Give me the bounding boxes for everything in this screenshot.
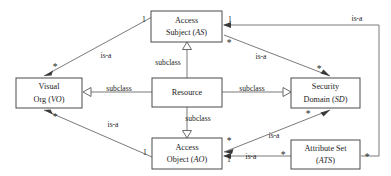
node-resource-line1: Resource — [172, 88, 203, 97]
node-visual-org[interactable]: Visual Org (VO) — [16, 78, 82, 108]
edge-label-vo-as-is-a: is-a — [101, 51, 113, 60]
node-visual-org-abbrev: VO — [51, 94, 62, 103]
node-access-subject-line2-post: ) — [204, 28, 207, 37]
node-visual-org-line2-post: ) — [62, 94, 65, 103]
node-security-domain-line2-post: ) — [345, 94, 348, 103]
node-resource[interactable]: Resource — [152, 78, 222, 107]
node-security-domain-line1: Security — [312, 82, 340, 91]
edge-label-ats-as-is-a: is-a — [352, 14, 364, 23]
edge-label-res-sd-subclass: subclass — [239, 84, 264, 93]
node-security-domain-line2: Domain (SD) — [304, 94, 348, 103]
node-access-object-line1: Access — [175, 143, 198, 152]
mult-ats-right-star: * — [365, 152, 370, 162]
mult-ats-left-star: * — [281, 150, 286, 160]
edge-res-ao-triangle — [183, 131, 192, 139]
mult-sd-top-star: * — [317, 64, 322, 74]
node-access-object-abbrev: AO — [192, 155, 204, 164]
mult-vo-bottom-star: * — [53, 112, 58, 122]
edge-label-res-ao-subclass: subclass — [185, 114, 210, 123]
mult-sd-bottom-star: * — [306, 109, 311, 119]
node-attribute-set-line2-post: ) — [332, 156, 335, 165]
node-access-object-line2: Object (AO) — [167, 155, 208, 164]
edge-as-sd-line — [224, 35, 330, 76]
node-visual-org-line2-pre: Org ( — [34, 94, 52, 103]
mult-as-right-one: 1 — [228, 15, 232, 24]
node-access-object[interactable]: Access Object (AO) — [152, 138, 222, 169]
node-visual-org-line2: Org (VO) — [34, 94, 65, 103]
node-security-domain-line2-pre: Domain ( — [304, 94, 335, 103]
mult-vo-top-star: * — [53, 62, 58, 72]
mult-ao-right-one: 1 — [227, 155, 231, 164]
mult-ao-left-one: 1 — [143, 148, 147, 157]
edge-label-res-vo-subclass: subclass — [106, 84, 131, 93]
node-attribute-set-abbrev: ATS — [318, 156, 332, 165]
node-visual-org-line1: Visual — [39, 82, 61, 91]
node-group: Access Subject (AS) Visual Org (VO) Reso… — [16, 11, 360, 169]
uml-class-diagram: Access Subject (AS) Visual Org (VO) Reso… — [0, 0, 391, 176]
node-access-subject-line2-pre: Subject ( — [166, 28, 196, 37]
edge-vo-ao-line — [44, 110, 152, 157]
edge-label-res-as-subclass: subclass — [155, 58, 180, 67]
edge-ao-sd-arrowhead-sd — [321, 110, 331, 117]
edge-vo-as-line — [44, 17, 152, 76]
node-access-object-line2-post: ) — [204, 155, 207, 164]
node-access-object-line2-pre: Object ( — [167, 155, 194, 164]
node-security-domain-abbrev: SD — [335, 94, 345, 103]
mult-as-left-one: 1 — [142, 15, 146, 24]
mult-as-right-star: * — [227, 38, 232, 48]
diagram-canvas: Access Subject (AS) Visual Org (VO) Reso… — [0, 0, 391, 176]
mult-ao-right-star: * — [227, 136, 232, 146]
edge-label-vo-ao-is-a: is-a — [108, 120, 120, 129]
edge-label-ats-ao-is-a: is-a — [246, 152, 258, 161]
edge-label-ao-sd-is-a: is-a — [269, 131, 281, 140]
edge-res-as-triangle — [183, 42, 192, 50]
node-attribute-set-line2: (ATS) — [316, 156, 335, 165]
node-access-subject-line2: Subject (AS) — [166, 28, 207, 37]
node-access-subject-abbrev: AS — [194, 28, 204, 37]
node-access-subject[interactable]: Access Subject (AS) — [151, 11, 222, 42]
node-attribute-set[interactable]: Attribute Set (ATS) — [291, 140, 360, 169]
edge-as-sd-arrowhead-sd — [321, 70, 331, 77]
edge-res-vo-triangle — [83, 88, 91, 97]
node-attribute-set-line1: Attribute Set — [304, 144, 347, 153]
edge-res-sd-triangle — [283, 88, 291, 97]
node-security-domain[interactable]: Security Domain (SD) — [291, 78, 360, 108]
node-access-subject-line1: Access — [175, 16, 198, 25]
edge-label-as-sd-is-a: is-a — [256, 52, 268, 61]
